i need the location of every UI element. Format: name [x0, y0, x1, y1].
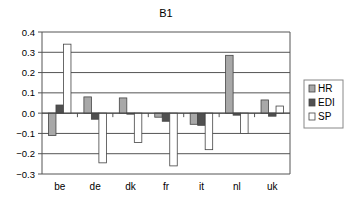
bar-it-sp — [205, 113, 213, 150]
y-tick-label: 0.3 — [22, 47, 35, 58]
gridlines — [42, 32, 290, 174]
bar-dk-hr — [119, 98, 127, 113]
x-tick-label: dk — [125, 181, 137, 192]
legend-swatch-edi — [309, 99, 315, 106]
y-tick-label: −0.3 — [16, 169, 35, 180]
bar-fr-edi — [162, 113, 170, 121]
y-tick-label: 0.2 — [22, 67, 35, 78]
legend-swatch-hr — [309, 85, 315, 92]
x-tick-label: uk — [267, 181, 279, 192]
y-tick-label: 0.0 — [22, 108, 35, 119]
x-tick-label: fr — [163, 181, 170, 192]
bar-be-sp — [63, 44, 71, 113]
bar-be-edi — [56, 105, 64, 113]
legend-swatch-sp — [309, 113, 315, 120]
bar-uk-hr — [261, 100, 269, 113]
bar-fr-sp — [170, 113, 178, 166]
x-tick-label: be — [54, 181, 66, 192]
y-tick-label: −0.1 — [16, 128, 35, 139]
bar-it-edi — [198, 113, 206, 125]
bar-de-edi — [91, 113, 99, 119]
bar-nl-hr — [226, 55, 234, 113]
x-tick-label: de — [90, 181, 102, 192]
y-tick-label: 0.4 — [22, 27, 35, 38]
x-axis: bededkfritnluk — [42, 113, 290, 192]
legend-label-edi: EDI — [318, 97, 335, 108]
bar-chart: B1 0.40.30.20.10.0−0.1−0.2−0.3 bededkfri… — [0, 0, 350, 204]
x-tick-label: nl — [233, 181, 241, 192]
legend-label-sp: SP — [318, 111, 332, 122]
bar-nl-sp — [241, 113, 249, 133]
legend-label-hr: HR — [318, 83, 332, 94]
chart-title: B1 — [159, 7, 172, 19]
bar-it-hr — [190, 113, 198, 124]
bars — [48, 44, 283, 166]
y-tick-label: 0.1 — [22, 87, 35, 98]
bar-de-sp — [99, 113, 107, 163]
x-tick-label: it — [199, 181, 204, 192]
y-tick-label: −0.2 — [16, 148, 35, 159]
y-axis: 0.40.30.20.10.0−0.1−0.2−0.3 — [16, 27, 290, 180]
bar-fr-hr — [155, 113, 163, 117]
legend: HREDISP — [304, 80, 343, 128]
bar-be-hr — [48, 113, 56, 135]
bar-uk-sp — [276, 106, 284, 113]
bar-de-hr — [84, 97, 92, 113]
bar-dk-sp — [134, 113, 142, 142]
